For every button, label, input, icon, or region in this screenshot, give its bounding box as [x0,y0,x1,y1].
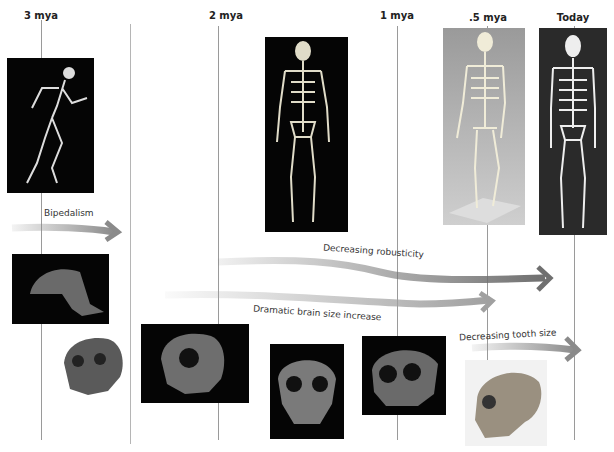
neanderthal-skull-photo [465,360,547,446]
early-homo-skull-photo [141,324,249,403]
trend-label-bipedalism: Bipedalism [44,208,94,218]
erectus-skull-front-photo [270,344,344,439]
heidelbergensis-skull-photo [362,336,446,415]
robust-face-skull [58,333,126,397]
ape-like-skull-photo [12,254,109,324]
